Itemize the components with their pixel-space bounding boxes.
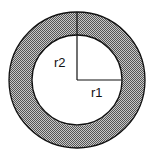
outer-radius-label: r2 — [54, 55, 66, 70]
annulus-diagram: r2 r1 — [0, 0, 154, 156]
inner-radius-label: r1 — [91, 85, 103, 100]
